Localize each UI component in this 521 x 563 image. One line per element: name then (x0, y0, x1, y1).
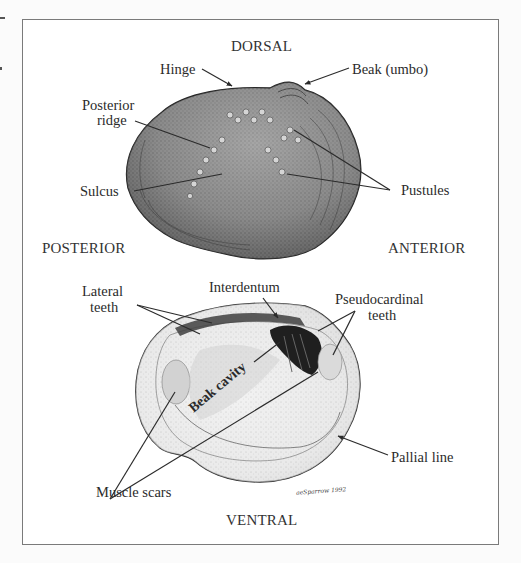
label-muscle-scars: Muscle scars (96, 484, 171, 500)
label-pseudocardinal-line1: Pseudocardinal (335, 291, 424, 307)
label-posterior-ridge-line1: Posterior (82, 97, 134, 113)
label-posterior: POSTERIOR (42, 240, 125, 256)
label-sulcus: Sulcus (80, 183, 119, 199)
label-pallial-line: Pallial line (391, 449, 453, 465)
label-hinge: Hinge (160, 61, 195, 77)
label-dorsal: DORSAL (231, 38, 292, 54)
label-anterior: ANTERIOR (388, 240, 465, 256)
label-lateral-teeth-line2: teeth (90, 299, 118, 315)
interior-shell (136, 303, 360, 482)
label-ventral: VENTRAL (226, 512, 297, 528)
label-posterior-ridge-line2: ridge (97, 112, 127, 128)
label-pustules: Pustules (401, 182, 449, 198)
exterior-shell (127, 82, 361, 259)
label-interdentum: Interdentum (209, 279, 280, 295)
label-beak-umbo: Beak (umbo) (352, 61, 428, 77)
label-lateral-teeth-line1: Lateral (82, 283, 123, 299)
label-pseudocardinal-line2: teeth (368, 307, 396, 323)
